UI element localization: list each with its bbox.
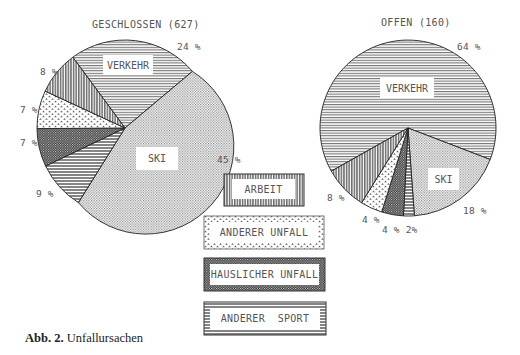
chart-title-offen: OFFEN (160) (381, 17, 451, 28)
pct-label-haeuslicher-sport: 4 % 2% (382, 224, 418, 235)
slice-label-verkehr: VERKEHR (380, 78, 434, 98)
pct-label-ski: 45 % (217, 154, 241, 165)
legend-item-anderer-sport: ANDERER SPORT (204, 302, 326, 335)
pct-label-anderer-unfall: 7 % (20, 104, 38, 115)
legend-label-anderer-unfall: ANDERER UNFALL (210, 222, 318, 243)
pct-label-verkehr: 24 % (177, 41, 201, 52)
legend-item-arbeit: ARBEIT (224, 174, 304, 206)
legend-label-haeuslicher-unfall: HAUSLICHER UNFALL (210, 264, 319, 285)
pct-label-haeuslicher-unfall: 7 % (20, 137, 38, 148)
pie-offen (320, 40, 496, 216)
legend-label-anderer-sport: ANDERER SPORT (210, 308, 320, 329)
caption-prefix: Abb. 2. (25, 331, 64, 345)
legend-item-haeuslicher-unfall: HAUSLICHER UNFALL (204, 258, 325, 291)
slice-label-ski: SKI (428, 168, 459, 190)
slice-label-ski: SKI (136, 147, 178, 170)
pct-label-arbeit: 8 % (40, 66, 58, 77)
pct-label-ski: 18 % (463, 205, 487, 216)
pct-label-arbeit: 8 % (327, 192, 345, 203)
chart-title-geschlossen: GESCHLOSSEN (627) (92, 19, 199, 30)
figure-caption: Abb. 2. Unfallursachen (25, 331, 143, 346)
legend-item-anderer-unfall: ANDERER UNFALL (204, 216, 324, 249)
legend-label-arbeit: ARBEIT (232, 179, 295, 199)
slice-label-verkehr: VERKEHR (103, 55, 153, 75)
caption-text: Unfallursachen (64, 331, 143, 345)
pct-label-verkehr: 64 % (457, 41, 481, 52)
pct-label-anderer-unfall: 4 % (362, 214, 380, 225)
pct-label-anderer-sport: 9 % (36, 188, 54, 199)
